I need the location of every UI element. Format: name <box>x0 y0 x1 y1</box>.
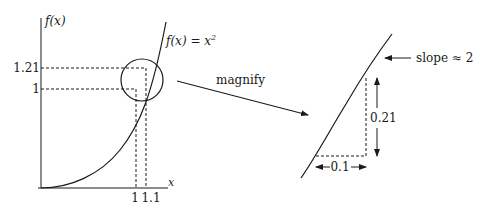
function-label-exponent: 2 <box>210 33 216 42</box>
diagram-canvas: f(x) x f(x) = x2 1.21 1 1 1.1 magnify sl… <box>0 0 484 209</box>
run-label: 0.1 <box>330 160 349 174</box>
diagram-svg: f(x) x f(x) = x2 1.21 1 1 1.1 magnify sl… <box>0 0 484 209</box>
function-label-base: f(x) = x <box>165 34 211 48</box>
slope-label: slope ≈ 2 <box>416 51 473 65</box>
function-label: f(x) = x2 <box>165 33 216 48</box>
magnify-label: magnify <box>216 73 265 87</box>
y-tick-1: 1 <box>32 82 40 96</box>
x-tick-1: 1 <box>131 191 139 205</box>
parabola-curve <box>41 22 166 188</box>
rise-label: 0.21 <box>370 111 397 125</box>
y-axis-label: f(x) <box>44 14 66 28</box>
x-tick-1.1: 1.1 <box>141 191 160 205</box>
x-axis-label: x <box>168 176 175 189</box>
magnifier-circle <box>121 59 163 101</box>
y-tick-1.21: 1.21 <box>13 61 40 75</box>
